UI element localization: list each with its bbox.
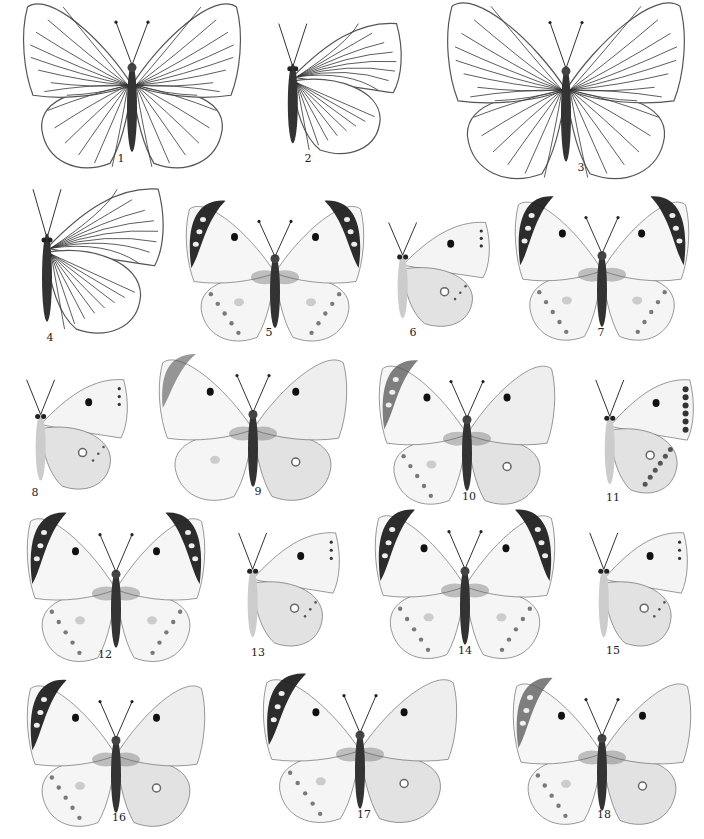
figure-number-label: 13 xyxy=(251,646,265,659)
butterfly-illustration xyxy=(16,375,128,493)
figure-number-label: 16 xyxy=(112,811,126,824)
butterfly-figure-7 xyxy=(514,214,690,332)
butterfly-figure-3 xyxy=(446,18,686,168)
butterfly-illustration xyxy=(158,372,348,492)
figure-number-label: 15 xyxy=(606,644,620,657)
figure-number-label: 18 xyxy=(597,808,611,821)
figure-number-label: 10 xyxy=(462,490,476,503)
butterfly-figure-6 xyxy=(378,218,490,330)
butterfly-figure-12 xyxy=(26,531,206,653)
figure-number-label: 5 xyxy=(266,326,273,339)
butterfly-figure-16 xyxy=(26,698,206,818)
butterfly-illustration xyxy=(185,218,365,333)
butterfly-figure-18 xyxy=(512,696,692,816)
butterfly-figure-1 xyxy=(22,18,242,158)
butterfly-figure-5 xyxy=(185,218,365,333)
butterfly-figure-11 xyxy=(586,375,694,497)
butterfly-figure-14 xyxy=(374,528,556,650)
butterfly-illustration xyxy=(446,18,686,168)
butterfly-figure-8 xyxy=(16,375,128,493)
butterfly-illustration xyxy=(512,696,692,816)
butterfly-illustration xyxy=(262,692,458,814)
butterfly-figure-15 xyxy=(580,528,688,650)
figure-number-label: 17 xyxy=(357,808,371,821)
butterfly-illustration xyxy=(26,531,206,653)
butterfly-illustration xyxy=(378,378,556,496)
butterfly-figure-2 xyxy=(262,18,402,158)
butterfly-figure-17 xyxy=(262,692,458,814)
butterfly-illustration xyxy=(378,218,490,330)
figure-number-label: 14 xyxy=(458,644,472,657)
figure-number-label: 12 xyxy=(98,648,112,661)
butterfly-illustration xyxy=(580,528,688,650)
butterfly-illustration xyxy=(14,183,164,338)
butterfly-illustration xyxy=(262,18,402,158)
butterfly-illustration xyxy=(514,214,690,332)
figure-number-label: 3 xyxy=(578,161,585,174)
butterfly-illustration xyxy=(586,375,694,497)
butterfly-figure-4 xyxy=(14,183,164,338)
figure-number-label: 2 xyxy=(305,152,312,165)
butterfly-illustration xyxy=(374,528,556,650)
butterfly-illustration xyxy=(228,528,340,650)
figure-number-label: 7 xyxy=(598,326,605,339)
figure-number-label: 4 xyxy=(47,331,54,344)
figure-number-label: 6 xyxy=(410,326,417,339)
butterfly-figure-13 xyxy=(228,528,340,650)
figure-number-label: 1 xyxy=(118,152,125,165)
figure-number-label: 11 xyxy=(606,491,620,504)
butterfly-illustration xyxy=(26,698,206,818)
figure-number-label: 8 xyxy=(32,486,39,499)
butterfly-figure-9 xyxy=(158,372,348,492)
butterfly-figure-10 xyxy=(378,378,556,496)
butterfly-illustration xyxy=(22,18,242,158)
figure-number-label: 9 xyxy=(255,485,262,498)
